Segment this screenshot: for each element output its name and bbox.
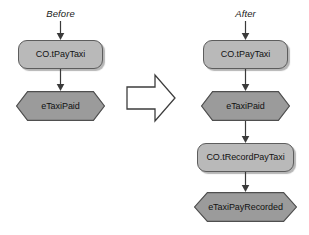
node-after-task-paytaxi[interactable]: CO.tPayTaxi: [203, 40, 288, 69]
before-after-diagram: Before CO.tPayTaxi eTaxiPaid After CO.tP…: [0, 0, 309, 235]
connector-after-3: [240, 172, 251, 192]
node-label: CO.tRecordPayTaxi: [206, 153, 284, 162]
node-before-event-taxipaid[interactable]: eTaxiPaid: [16, 91, 105, 121]
node-before-task-paytaxi[interactable]: CO.tPayTaxi: [18, 40, 103, 69]
hexagon-outline-icon: [201, 91, 290, 121]
node-label: CO.tPayTaxi: [221, 50, 270, 59]
node-after-event-taxipaid[interactable]: eTaxiPaid: [201, 91, 290, 121]
connector-entry-after: [240, 21, 251, 40]
connector-after-2: [240, 121, 251, 143]
hexagon-outline-icon: [194, 192, 297, 222]
column-label-before: Before: [18, 8, 103, 19]
column-label-after: After: [203, 8, 288, 19]
hexagon-outline-icon: [16, 91, 105, 121]
node-label: CO.tPayTaxi: [36, 50, 85, 59]
node-after-event-taxipayrecorded[interactable]: eTaxiPayRecorded: [194, 192, 297, 222]
connector-before-1: [55, 69, 66, 91]
node-after-task-recordpaytaxi[interactable]: CO.tRecordPayTaxi: [197, 143, 294, 172]
connector-after-1: [240, 69, 251, 91]
right-block-arrow-icon: [124, 72, 178, 124]
connector-entry-before: [55, 21, 66, 40]
